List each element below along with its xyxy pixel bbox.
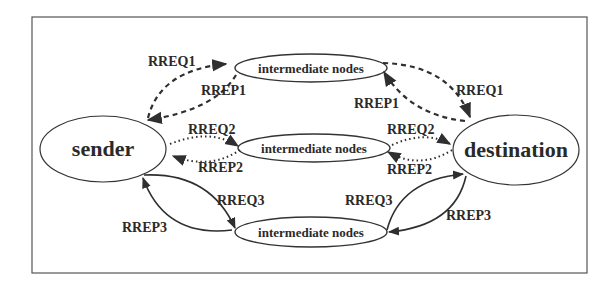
label-rreq2-left: RREQ2 <box>188 122 235 137</box>
edge-rrep2-right <box>388 150 452 161</box>
label-rrep2-left: RREP2 <box>198 160 243 175</box>
node-sender: sender <box>40 116 166 182</box>
label-rreq1-left: RREQ1 <box>148 54 195 69</box>
label-rreq3-right: RREQ3 <box>345 193 392 208</box>
edge-rrep3-right <box>389 176 466 232</box>
label-rrep1-left: RREP1 <box>201 83 246 98</box>
destination-label: destination <box>464 137 568 162</box>
node-intermediate-bottom: intermediate nodes <box>235 217 387 247</box>
intermediate-bottom-label: intermediate nodes <box>258 225 364 240</box>
node-destination: destination <box>453 115 579 185</box>
label-rreq2-right: RREQ2 <box>387 122 434 137</box>
node-intermediate-top: intermediate nodes <box>235 54 387 82</box>
label-rreq1-right: RREQ1 <box>456 83 503 98</box>
edge-rreq2-right <box>392 137 450 145</box>
label-rrep1-right: RREP1 <box>354 96 399 111</box>
intermediate-top-label: intermediate nodes <box>258 61 364 76</box>
route-3-edges <box>143 174 466 232</box>
node-intermediate-middle: intermediate nodes <box>238 134 390 162</box>
label-rrep3-right: RREP3 <box>446 208 491 223</box>
label-rrep2-right: RREP2 <box>387 162 432 177</box>
sender-label: sender <box>72 136 135 161</box>
routing-diagram: sender destination intermediate nodes in… <box>0 0 610 288</box>
intermediate-middle-label: intermediate nodes <box>261 141 367 156</box>
edge-rreq2-left <box>170 136 238 146</box>
label-rreq3-left: RREQ3 <box>217 193 264 208</box>
label-rrep3-left: RREP3 <box>122 220 167 235</box>
